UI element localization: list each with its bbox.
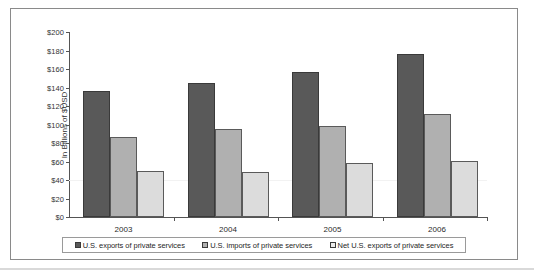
x-tick-label: 2005 [324, 225, 342, 234]
legend-swatch-icon [75, 242, 81, 248]
legend-swatch-icon [330, 242, 336, 248]
legend-label: U.S. exports of private services [83, 241, 185, 250]
x-tick-label: 2006 [428, 225, 446, 234]
x-tick-mark [174, 217, 175, 221]
bar-group [83, 32, 164, 217]
bar [83, 91, 110, 217]
x-tick-mark [487, 217, 488, 221]
y-tick-mark [66, 143, 69, 144]
legend-item[interactable]: Net U.S. exports of private services [330, 241, 454, 250]
bar [319, 126, 346, 217]
bar [346, 163, 373, 217]
bar-group [397, 32, 478, 217]
bar [397, 54, 424, 217]
plot-area: In Billions of $USD $0$20$40$60$80$100$1… [69, 32, 487, 217]
y-tick-mark [66, 32, 69, 33]
bar [215, 129, 242, 217]
chart-legend: U.S. exports of private servicesU.S. imp… [62, 237, 466, 253]
legend-item[interactable]: U.S. imports of private services [202, 241, 312, 250]
y-tick-mark [66, 106, 69, 107]
bar [188, 83, 215, 217]
y-tick-mark [66, 217, 69, 218]
bar [110, 137, 137, 217]
page-bottom-rule [0, 268, 534, 270]
legend-item[interactable]: U.S. exports of private services [75, 241, 185, 250]
bar [424, 114, 451, 217]
legend-swatch-icon [202, 242, 208, 248]
y-tick-mark [66, 69, 69, 70]
y-tick-mark [66, 125, 69, 126]
legend-label: Net U.S. exports of private services [338, 241, 454, 250]
x-tick-label: 2003 [115, 225, 133, 234]
y-tick-mark [66, 51, 69, 52]
x-tick-mark [383, 217, 384, 221]
bar [292, 72, 319, 217]
bar [242, 172, 269, 217]
bar [137, 171, 164, 217]
bar-group [292, 32, 373, 217]
legend-label: U.S. imports of private services [210, 241, 312, 250]
y-tick-mark [66, 199, 69, 200]
x-tick-label: 2004 [219, 225, 237, 234]
y-tick-mark [66, 162, 69, 163]
y-tick-mark [66, 88, 69, 89]
bar [451, 161, 478, 217]
x-tick-mark [278, 217, 279, 221]
chart-figure-frame: In Billions of $USD $0$20$40$60$80$100$1… [10, 8, 518, 260]
bar-group [188, 32, 269, 217]
